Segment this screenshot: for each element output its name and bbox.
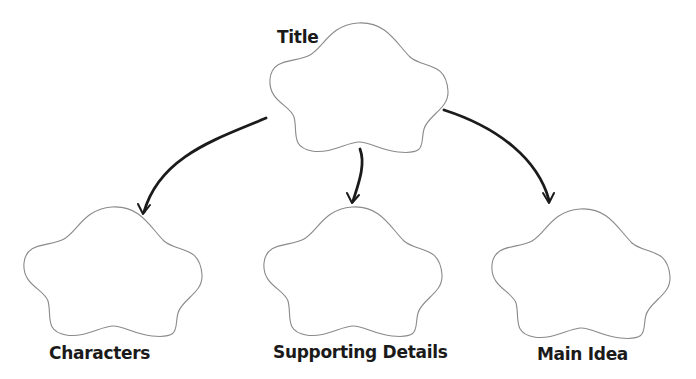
cloud-characters [24,207,202,337]
arrow-to-supporting-details [347,149,362,203]
label-main-idea: Main Idea [537,344,628,364]
arrow-to-characters [138,118,266,214]
label-title: Title [277,27,318,47]
label-characters: Characters [49,343,150,363]
arrow-to-main-idea [444,110,554,203]
cloud-supporting-details [264,207,442,337]
graphic-organizer-diagram [0,0,696,379]
label-supporting-details: Supporting Details [273,342,448,362]
cloud-main-idea [492,209,670,339]
